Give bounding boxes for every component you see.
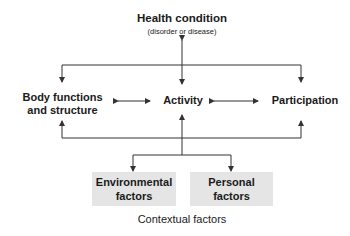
health-condition-subtitle: (disorder or disease) [0,27,350,36]
body-functions-node: Body functions and structure [10,91,115,117]
contextual-factors-label: Contextual factors [0,213,350,225]
environmental-factors-box: Environmental factors [92,172,176,206]
participation-node: Participation [260,94,350,106]
activity-node: Activity [152,94,214,106]
health-condition-title: Health condition [0,12,350,24]
personal-factors-box: Personal factors [190,172,273,206]
